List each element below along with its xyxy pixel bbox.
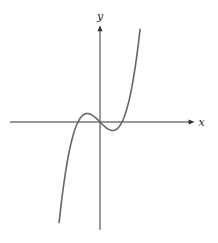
cubic-graph: x y xyxy=(0,0,218,243)
x-axis-label: x xyxy=(199,116,206,129)
x-axis-arrowhead-icon xyxy=(189,120,195,125)
y-axis-label: y xyxy=(96,10,104,23)
y-axis-arrowhead-icon xyxy=(98,25,103,31)
